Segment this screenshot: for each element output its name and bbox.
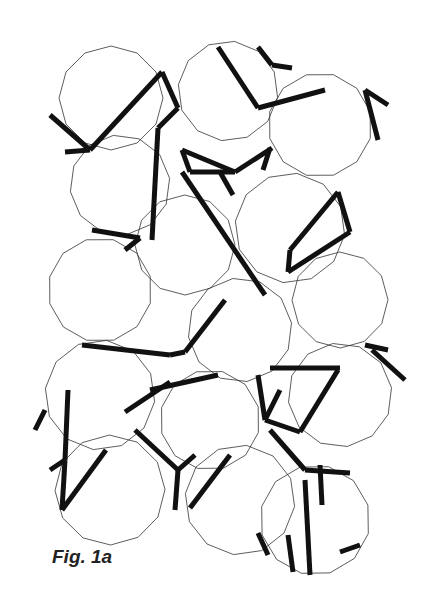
tile-polygon (50, 240, 151, 341)
thick-edges (35, 47, 405, 575)
thick-edge (365, 345, 388, 350)
tile-polygon (292, 252, 388, 348)
thick-edge (170, 352, 185, 355)
thick-edge (272, 65, 292, 68)
thick-edge (152, 128, 158, 240)
thick-edge (90, 72, 162, 150)
thick-edge (175, 470, 178, 510)
figure-caption: Fig. 1a (52, 546, 112, 568)
thick-edge (125, 238, 140, 250)
thick-edge (162, 72, 178, 108)
thick-edge (372, 350, 405, 380)
thick-edge (92, 230, 140, 238)
thick-edge (35, 410, 45, 430)
thick-edge (338, 192, 350, 232)
thick-edge (340, 545, 360, 552)
thick-edge (220, 172, 233, 195)
thick-edge (265, 390, 280, 420)
thick-edge (182, 172, 265, 295)
thick-edge (305, 470, 350, 473)
thick-edge (82, 345, 170, 355)
thick-edge (50, 115, 90, 150)
thick-edge (305, 480, 310, 575)
thick-edge (185, 300, 225, 352)
thick-edge (178, 455, 195, 470)
thick-edge (270, 430, 305, 470)
thick-edge (258, 90, 325, 108)
thick-edge (62, 450, 106, 510)
thick-edge (158, 108, 178, 128)
thick-edge (320, 465, 322, 505)
tile-polygon (185, 445, 294, 554)
thick-edge (258, 47, 272, 65)
thick-edge (300, 370, 338, 432)
tiling-diagram (0, 0, 433, 610)
tile-polygon (55, 435, 165, 545)
tile-polygon (262, 467, 369, 574)
thick-edge (290, 192, 338, 250)
thick-edge (218, 47, 258, 108)
tile-polygon (289, 344, 392, 447)
thick-edge (258, 375, 265, 420)
thick-edge (150, 375, 218, 390)
thick-edge (65, 150, 90, 152)
thick-edge (65, 390, 68, 460)
thick-edge (190, 455, 230, 508)
